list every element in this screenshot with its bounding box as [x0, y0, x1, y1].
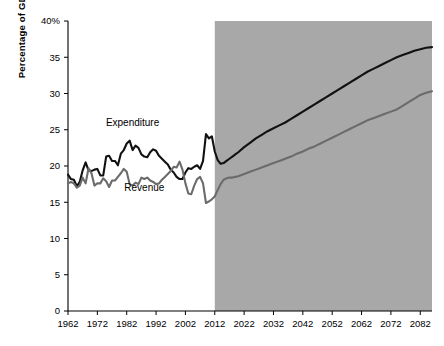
x-tick-label: 2042: [292, 318, 313, 329]
annotation-expenditure: Expenditure: [106, 117, 160, 128]
y-tick-label: 30: [49, 88, 60, 99]
y-tick-label: 40%: [41, 15, 61, 26]
x-tick-label: 2052: [322, 318, 343, 329]
x-tick-labels: 1962197219821992200220122022203220422052…: [57, 318, 430, 329]
y-tick-label: 10: [49, 233, 60, 244]
x-tick-marks: [68, 311, 420, 315]
y-tick-label: 35: [49, 52, 60, 63]
x-tick-label: 2022: [234, 318, 255, 329]
y-tick-label: 15: [49, 197, 60, 208]
chart-plot: 0510152025303540% 1962197219821992200220…: [0, 0, 444, 346]
chart-container: Percentage of GDP 0510152025303540% 1962…: [0, 0, 444, 346]
y-tick-label: 0: [55, 305, 60, 316]
y-tick-marks: [64, 21, 68, 311]
x-tick-label: 2082: [410, 318, 431, 329]
y-tick-labels: 0510152025303540%: [41, 15, 61, 316]
y-tick-label: 20: [49, 160, 60, 171]
annotation-revenue: Revenue: [124, 182, 164, 193]
projection-shaded-region: [215, 21, 432, 311]
y-tick-label: 25: [49, 124, 60, 135]
x-tick-label: 2072: [380, 318, 401, 329]
x-tick-label: 2012: [204, 318, 225, 329]
y-tick-label: 5: [55, 269, 60, 280]
x-tick-label: 2032: [263, 318, 284, 329]
x-tick-label: 1962: [57, 318, 78, 329]
x-tick-label: 1982: [116, 318, 137, 329]
projection-band: [215, 21, 432, 311]
x-tick-label: 2062: [351, 318, 372, 329]
x-tick-label: 2002: [175, 318, 196, 329]
x-tick-label: 1992: [145, 318, 166, 329]
x-tick-label: 1972: [87, 318, 108, 329]
